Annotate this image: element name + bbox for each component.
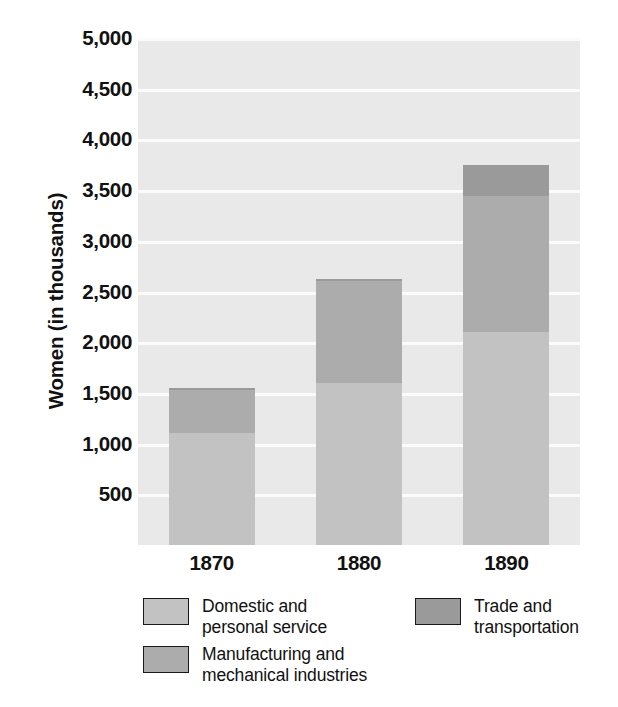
chart-legend: Domestic and personal serviceTrade and t… <box>143 596 613 696</box>
bar-segment <box>169 433 255 545</box>
y-axis-tick-labels: 5,0004,5004,0003,5003,0002,5002,0001,500… <box>8 38 132 545</box>
legend-item-label: Manufacturing and mechanical industries <box>202 644 367 686</box>
y-axis-tick-label: 3,000 <box>12 229 132 253</box>
stacked-bar-chart: Women (in thousands) 5,0004,5004,0003,50… <box>0 0 618 707</box>
y-axis-tick-label: 4,000 <box>12 127 132 151</box>
y-axis-tick-label: 500 <box>12 482 132 506</box>
bar-segment <box>169 390 255 434</box>
bar-segment <box>316 281 402 382</box>
legend-swatch-icon <box>143 598 189 625</box>
x-axis-tick-label: 1880 <box>304 549 414 577</box>
x-axis-tick-labels: 187018801890 <box>138 549 580 581</box>
legend-item-label: Trade and transportation <box>474 596 579 638</box>
x-axis-tick-label: 1890 <box>451 549 561 577</box>
bar-group <box>169 38 255 545</box>
y-axis-tick-label: 1,000 <box>12 432 132 456</box>
y-axis-tick-label: 2,500 <box>12 280 132 304</box>
legend-item[interactable]: Trade and transportation <box>415 596 579 638</box>
bar-segment <box>463 332 549 545</box>
bar-group <box>316 38 402 545</box>
legend-item-label: Domestic and personal service <box>202 596 327 638</box>
bar-segment <box>463 196 549 332</box>
plot-area <box>138 38 580 545</box>
x-axis-tick-label: 1870 <box>157 549 267 577</box>
bar-segment <box>169 388 255 390</box>
y-axis-tick-label: 2,000 <box>12 330 132 354</box>
bar-segment <box>316 383 402 545</box>
legend-item[interactable]: Domestic and personal service <box>143 596 327 638</box>
legend-swatch-icon <box>143 646 189 673</box>
bar-group <box>463 38 549 545</box>
legend-swatch-icon <box>415 598 461 625</box>
y-axis-tick-label: 4,500 <box>12 77 132 101</box>
bar-segment <box>316 279 402 281</box>
y-axis-tick-label: 5,000 <box>12 26 132 50</box>
y-axis-tick-label: 3,500 <box>12 178 132 202</box>
bar-segment <box>463 165 549 196</box>
y-axis-tick-label: 1,500 <box>12 381 132 405</box>
legend-item[interactable]: Manufacturing and mechanical industries <box>143 644 367 686</box>
